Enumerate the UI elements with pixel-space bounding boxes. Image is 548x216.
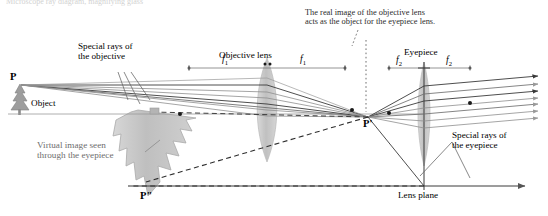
label-focal-f1-left: f1 — [222, 54, 228, 66]
f2-left-sub: 2 — [399, 60, 402, 67]
callout-virtual-image: Virtual image seen through the eyepiece — [37, 140, 114, 161]
f2-right-sub: 2 — [449, 60, 452, 67]
objective-top-dot-b — [269, 63, 272, 66]
eyepiece-principal-ray-down — [368, 117, 424, 186]
virtual-image-cap — [150, 108, 159, 114]
objective-ray-bundle — [21, 78, 368, 117]
label-object: Object — [31, 98, 56, 108]
microscope-ray-diagram: Microscope ray diagram, magnifying glass — [0, 0, 548, 216]
label-point-p: P — [10, 71, 16, 83]
note-real-image: The real image of the objective lens act… — [305, 8, 435, 27]
eyepiece-ray-bundle — [368, 76, 538, 128]
label-point-p-prime: P' — [363, 118, 372, 130]
label-eyepiece: Eyepiece — [404, 47, 438, 57]
ray-diagram-canvas — [0, 0, 548, 216]
label-focal-f2-right: f2 — [446, 55, 452, 67]
callout-special-rays-objective: Special rays of the objective — [78, 41, 133, 62]
label-focal-f1-right: f1 — [300, 54, 306, 66]
object-tree-glyph — [11, 84, 29, 115]
f1-left-sub: 1 — [225, 59, 228, 66]
label-lens-plane: Lens plane — [398, 190, 438, 200]
objective-top-dot-a — [264, 63, 267, 66]
objective-focal-dot-right — [350, 108, 354, 112]
virtual-image-arrow — [113, 110, 196, 196]
f1-right-sub: 1 — [303, 59, 306, 66]
eyepiece-focal-dot-right — [468, 101, 472, 105]
label-point-p-double-prime: P" — [140, 190, 152, 202]
label-focal-f2-left: f2 — [396, 55, 402, 67]
callout-special-rays-eyepiece: Special rays of the eyepiece — [452, 130, 507, 151]
eyepiece-focal-dot-left — [387, 111, 391, 115]
